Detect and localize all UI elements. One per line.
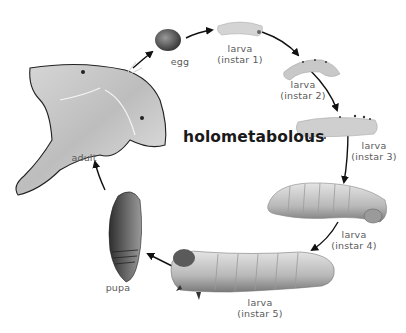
label-pupa-text: pupa	[106, 282, 131, 293]
label-larva-instar-3: larva (instar 3)	[350, 140, 398, 162]
label-larva-instar-1: larva (instar 1)	[216, 43, 264, 65]
larva-instar-5-image	[171, 249, 334, 300]
adult-moth-image	[16, 62, 166, 195]
label-larva-5-line1: larva	[236, 297, 284, 308]
label-larva-3-line2: (instar 3)	[350, 151, 398, 162]
label-larva-instar-5: larva (instar 5)	[236, 297, 284, 319]
arrow-adult-to-egg	[133, 52, 152, 68]
larva-instar-1-image	[218, 22, 263, 36]
label-larva-5-line2: (instar 5)	[236, 308, 284, 319]
label-larva-2-line2: (instar 2)	[279, 90, 327, 101]
label-larva-1-line2: (instar 1)	[216, 54, 264, 65]
label-adult: adult	[70, 152, 98, 163]
label-egg-text: egg	[171, 56, 190, 67]
diagram-title: holometabolous	[183, 128, 325, 146]
label-larva-instar-4: larva (instar 4)	[330, 229, 378, 251]
label-larva-1-line1: larva	[216, 43, 264, 54]
diagram-artwork	[0, 0, 406, 333]
arrow-larva3-to-larva4	[344, 130, 348, 182]
label-larva-3-line1: larva	[350, 140, 398, 151]
label-larva-4-line1: larva	[330, 229, 378, 240]
larva-instar-2-image	[284, 59, 340, 80]
label-adult-text: adult	[71, 152, 96, 163]
egg-image	[155, 29, 181, 51]
label-egg: egg	[170, 56, 190, 67]
label-larva-2-line1: larva	[279, 79, 327, 90]
arrow-larva1-to-larva2	[262, 32, 298, 55]
arrow-egg-to-larva1	[186, 30, 212, 38]
pupa-image	[109, 192, 142, 282]
label-pupa: pupa	[104, 282, 132, 293]
larva-instar-4-image	[268, 183, 387, 223]
label-larva-4-line2: (instar 4)	[330, 240, 378, 251]
arrow-pupa-to-adult	[95, 162, 105, 190]
label-larva-instar-2: larva (instar 2)	[279, 79, 327, 101]
life-cycle-diagram: holometabolous egg larva (instar 1) larv…	[0, 0, 406, 333]
